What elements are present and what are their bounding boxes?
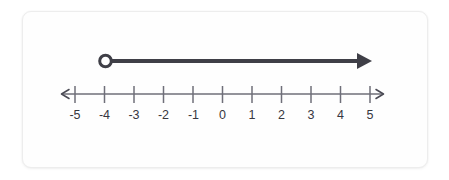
solution-ray-arrowhead-icon — [357, 53, 372, 69]
number-line-figure: -5 -4 -3 -2 -1 0 1 2 3 4 5 — [0, 0, 449, 180]
tick-label: 4 — [337, 108, 344, 122]
tick-label: 1 — [249, 108, 256, 122]
tick-labels-group: -5 -4 -3 -2 -1 0 1 2 3 4 5 — [69, 108, 373, 122]
tick-label: 2 — [278, 108, 285, 122]
tick-label: -3 — [128, 108, 139, 122]
tick-label: -1 — [188, 108, 199, 122]
tick-label: 3 — [308, 108, 315, 122]
tick-label: -5 — [69, 108, 80, 122]
screenshot-stage: -5 -4 -3 -2 -1 0 1 2 3 4 5 — [0, 0, 449, 180]
tick-label: 0 — [219, 108, 226, 122]
tick-label: -4 — [99, 108, 110, 122]
solution-ray-group — [100, 53, 372, 69]
number-line-svg: -5 -4 -3 -2 -1 0 1 2 3 4 5 — [0, 0, 449, 180]
tick-label: 5 — [367, 108, 374, 122]
tick-label: -2 — [158, 108, 169, 122]
open-circle-endpoint-icon — [100, 55, 112, 67]
